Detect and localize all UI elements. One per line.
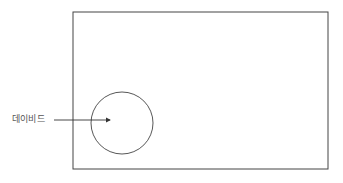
diagram-canvas (0, 0, 343, 183)
target-circle (91, 92, 153, 154)
frame-rectangle (73, 12, 328, 169)
person-label: 데이비드 (12, 113, 45, 125)
